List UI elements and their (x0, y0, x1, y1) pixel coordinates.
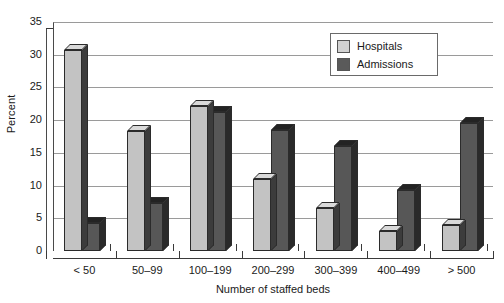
y-tick-label: 30 (18, 49, 42, 60)
x-tick-mark-back (236, 244, 237, 251)
bar-side-face (415, 184, 421, 251)
y-tick-label: 20 (18, 114, 42, 125)
bar-chart: Percent 35302520151050 < 5050–99100–1992… (0, 0, 504, 303)
x-tick-mark (493, 251, 494, 259)
bar-hospitals (379, 231, 397, 251)
x-tick-mark (179, 251, 180, 259)
x-axis-title: Number of staffed beds (53, 283, 493, 295)
x-tick-mark (430, 251, 431, 259)
legend-label-admissions: Admissions (357, 59, 413, 70)
bar-side-face (352, 140, 358, 251)
y-tick-label: 5 (18, 212, 42, 223)
bar-side-face (478, 117, 484, 251)
bar-front-face (379, 231, 397, 251)
y-tick-label: 0 (18, 245, 42, 256)
bar-hospitals (442, 225, 460, 251)
bar-front-face (442, 225, 460, 251)
bar-hospitals (127, 131, 145, 251)
chart-legend: Hospitals Admissions (330, 33, 438, 76)
bar-front-face (64, 50, 82, 251)
legend-swatch-hospitals (337, 40, 350, 53)
bar-side-face (163, 197, 169, 251)
x-tick-label: > 500 (425, 264, 499, 276)
bar-side-face (334, 202, 340, 251)
y-tick-label: 35 (18, 16, 42, 27)
x-tick-mark (116, 251, 117, 259)
x-tick-mark-back (298, 244, 299, 251)
bar-side-face (145, 125, 151, 251)
legend-item-hospitals: Hospitals (337, 38, 437, 55)
bar-hospitals (190, 106, 208, 251)
legend-label-hospitals: Hospitals (357, 41, 402, 52)
y-tick-label: 10 (18, 180, 42, 191)
bar-side-face (289, 124, 295, 251)
x-tick-mark-back (361, 244, 362, 251)
bar-side-face (82, 44, 88, 251)
x-tick-mark-back (487, 244, 488, 251)
y-axis-title: Percent (5, 79, 17, 149)
bar-hospitals (253, 179, 271, 251)
bar-hospitals (64, 50, 82, 251)
legend-item-admissions: Admissions (337, 56, 437, 73)
plot-floor-left-edge (46, 251, 54, 259)
bar-side-face (271, 173, 277, 251)
x-tick-mark (242, 251, 243, 259)
y-tick-label: 25 (18, 81, 42, 92)
bar-side-face (226, 106, 232, 251)
bar-front-face (190, 106, 208, 251)
legend-swatch-admissions (337, 58, 350, 71)
bar-side-face (208, 100, 214, 251)
x-tick-mark-back (424, 244, 425, 251)
plot-floor (53, 251, 493, 259)
bar-front-face (316, 208, 334, 251)
bar-front-face (127, 131, 145, 251)
x-tick-mark (367, 251, 368, 259)
x-tick-mark-back (173, 244, 174, 251)
x-tick-mark-back (110, 244, 111, 251)
plot-depth-wall (46, 29, 53, 258)
bar-front-face (253, 179, 271, 251)
y-tick-label: 15 (18, 147, 42, 158)
bar-hospitals (316, 208, 334, 251)
x-tick-mark (304, 251, 305, 259)
